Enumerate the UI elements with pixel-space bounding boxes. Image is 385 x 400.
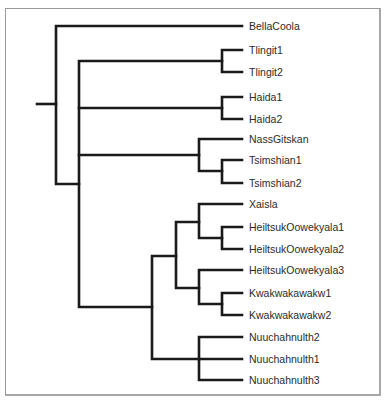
- leaf-label-xaisla: Xaisla: [249, 198, 278, 210]
- leaf-label-tsimshian2: Tsimshian2: [249, 177, 302, 189]
- phylogenetic-tree: [0, 0, 385, 400]
- node-tsimshianic: [199, 139, 242, 171]
- node-xaisla-heiltsuk: [199, 204, 242, 238]
- leaf-label-heiltsukoowekyala2: HeiltsukOowekyala2: [249, 243, 344, 255]
- leaf-label-nassgitskan: NassGitskan: [249, 133, 309, 145]
- node-wakashan: [176, 222, 199, 288]
- leaf-label-heiltsukoowekyala3: HeiltsukOowekyala3: [249, 264, 344, 276]
- leaf-label-kwakwakawakw1: Kwakwakawakw1: [249, 287, 331, 299]
- node-haida: [222, 97, 242, 119]
- leaf-label-nuuchahnulth1: Nuuchahnulth1: [249, 353, 320, 365]
- node-kwakwakawakw: [222, 293, 242, 315]
- leaf-label-haida1: Haida1: [249, 91, 282, 103]
- leaf-label-tlingit1: Tlingit1: [249, 44, 283, 56]
- node-tlingit: [222, 50, 242, 72]
- leaf-label-tsimshian1: Tsimshian1: [249, 154, 302, 166]
- leaf-label-tlingit2: Tlingit2: [249, 66, 283, 78]
- node-root: [56, 26, 242, 184]
- node-heiltsuk12: [222, 227, 242, 249]
- leaf-label-bellacoola: BellaCoola: [249, 20, 300, 32]
- node-tsimshian: [222, 160, 242, 183]
- leaf-label-kwakwakawakw2: Kwakwakawakw2: [249, 309, 331, 321]
- leaf-label-nuuchahnulth3: Nuuchahnulth3: [249, 374, 320, 386]
- leaf-label-nuuchahnulth2: Nuuchahnulth2: [249, 331, 320, 343]
- leaf-label-heiltsukoowekyala1: HeiltsukOowekyala1: [249, 221, 344, 233]
- node-heiltsuk3-kwak: [199, 270, 242, 304]
- leaf-label-haida2: Haida2: [249, 113, 282, 125]
